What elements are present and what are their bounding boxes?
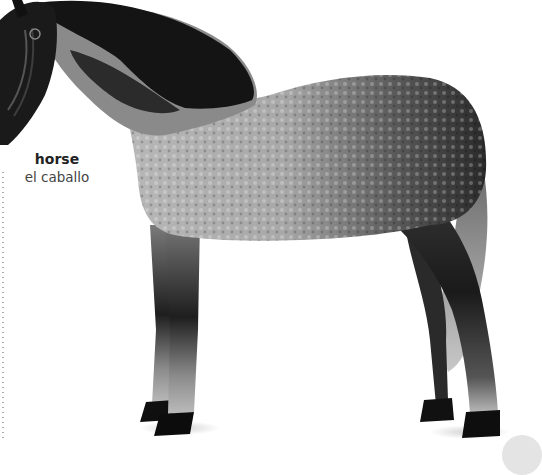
english-word: horse (20, 150, 94, 168)
page-corner-tab (502, 435, 542, 475)
leader-dotted-line (2, 170, 4, 440)
spanish-word: el caballo (20, 168, 94, 187)
word-label: horse el caballo (20, 150, 94, 187)
